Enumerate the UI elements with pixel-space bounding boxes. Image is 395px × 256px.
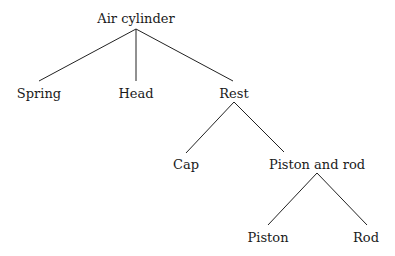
tree-edges (0, 0, 395, 256)
node-rest: Rest (219, 87, 248, 100)
node-air-cylinder: Air cylinder (97, 12, 174, 25)
edge-piston-and-rod-rod (317, 173, 367, 225)
node-rod: Rod (353, 231, 379, 244)
tree-diagram: Air cylinder Spring Head Rest Cap Piston… (0, 0, 395, 256)
node-cap: Cap (173, 158, 199, 171)
edge-air-cylinder-rest (136, 29, 233, 81)
edge-piston-and-rod-piston (268, 173, 317, 225)
node-head: Head (118, 87, 153, 100)
node-spring: Spring (17, 87, 61, 100)
edge-rest-cap (186, 102, 234, 153)
edge-rest-piston-and-rod (234, 102, 284, 152)
node-piston-and-rod: Piston and rod (269, 158, 365, 171)
edge-air-cylinder-spring (39, 29, 136, 81)
node-piston: Piston (248, 231, 289, 244)
